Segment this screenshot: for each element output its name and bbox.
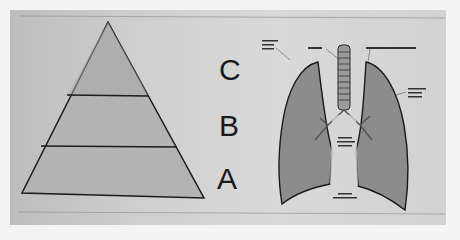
pyramid-divider-top bbox=[67, 95, 148, 96]
pyramid-label-b: B bbox=[219, 109, 239, 143]
pyramid-label-a: A bbox=[217, 162, 237, 196]
left-lung bbox=[279, 62, 332, 204]
right-lung bbox=[356, 62, 408, 210]
pyramid bbox=[22, 22, 204, 198]
pyramid-label-c: C bbox=[219, 53, 241, 87]
pyramid-divider-bottom bbox=[41, 146, 177, 147]
lungs-illustration bbox=[262, 40, 426, 210]
